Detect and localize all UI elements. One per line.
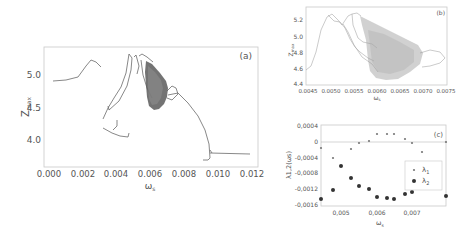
panel-c-label: (c)	[434, 131, 444, 139]
panel-a-xtick: 0.010	[206, 169, 230, 179]
figure: (a) 5.0 4.5 4.0 Zmax 0.000 0.002 0.004 0…	[0, 0, 472, 233]
panel-b-xtick: 0.0055	[344, 88, 364, 94]
panel-c-xtick: 0,005	[332, 209, 349, 216]
panel-a-label: (a)	[239, 51, 252, 61]
panel-b-xtick: 0.0070	[413, 88, 433, 94]
panel-c-ytick: -0,0016	[295, 201, 318, 208]
panel-b-ytick: 5.0	[293, 33, 303, 40]
panel-a-xtick: 0.002	[71, 169, 95, 179]
legend-lambda1-marker	[413, 169, 415, 171]
panel-b-bifurcation-curves	[306, 13, 445, 80]
panel-b-xlabel: ωs	[373, 94, 380, 102]
panel-a-xtick: 0.000	[37, 169, 61, 179]
panel-b-ytick: 4.4	[293, 80, 303, 87]
panel-b-zoomed-bifurcation-chart: (b) 5.2 5.0 4.8 4.6 4.4 Zmax 0.0045 0.00…	[287, 7, 456, 102]
panel-a-xtick: 0.008	[172, 169, 196, 179]
panel-c-lyapunov-chart: (c) 0,0004 0 -0,0004 -0,0008 -0,0012 -0,…	[285, 122, 448, 228]
panel-a-ytick: 4.0	[27, 135, 42, 145]
svg-text:λ1,2(ωs): λ1,2(ωs)	[285, 151, 293, 179]
panel-b-ytick: 4.6	[293, 65, 303, 72]
panel-c-ytick: 0,0004	[297, 122, 318, 129]
panel-a-xtick: 0.006	[138, 169, 162, 179]
svg-text:Zmax: Zmax	[287, 43, 295, 56]
panel-c-xtick: 0,007	[403, 209, 420, 216]
panel-c-ylabel: λ1,2(ωs)	[285, 151, 293, 179]
panel-a-ylabel: Zmax	[20, 97, 32, 117]
panel-a-ytick: 5.0	[27, 70, 42, 80]
panel-c-ytick: -0,0012	[295, 185, 318, 192]
panel-b-xtick: 0.0045	[298, 88, 318, 94]
panel-a-bifurcation-chart: (a) 5.0 4.5 4.0 Zmax 0.000 0.002 0.004 0…	[20, 47, 264, 192]
panel-b-label: (b)	[437, 9, 446, 16]
panel-b-ytick: 5.2	[293, 16, 303, 23]
panel-c-xtick: 0,006	[368, 209, 385, 216]
panel-c-legend: λ1 λ2	[405, 161, 442, 190]
panel-b-xtick: 0.0050	[321, 88, 341, 94]
panel-b-ylabel: Zmax	[287, 43, 295, 56]
panel-c-ytick: -0,0004	[295, 154, 318, 161]
legend-lambda2-marker	[412, 179, 416, 183]
panel-c-ytick: -0,0008	[295, 169, 318, 176]
panel-c-xlabel: ωs	[376, 219, 384, 228]
panel-a-xtick: 0.012	[240, 169, 264, 179]
panel-a-bifurcation-curves	[53, 54, 250, 160]
panel-a-xtick: 0.004	[104, 169, 128, 179]
panel-b-xtick: 0.0065	[390, 88, 410, 94]
panel-c-ytick: 0	[314, 138, 318, 145]
panel-a-xlabel: ωs	[145, 181, 156, 192]
panel-b-xtick: 0.0075	[436, 88, 456, 94]
svg-text:Zmax: Zmax	[20, 97, 32, 117]
